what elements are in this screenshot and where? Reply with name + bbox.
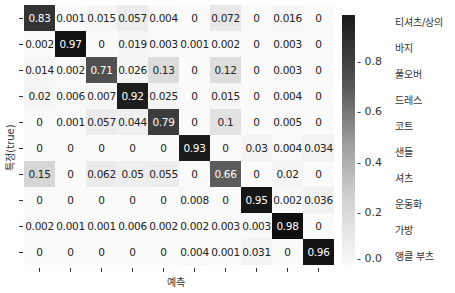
heatmap-cell: 0.97: [55, 31, 86, 57]
heatmap-cell: 0.1: [210, 109, 241, 135]
heatmap-cell: 0.001: [55, 109, 86, 135]
heatmap-cell: 0.016: [272, 5, 303, 31]
heatmap-cell: 0.015: [86, 5, 117, 31]
heatmap-cell: 0.96: [303, 239, 334, 265]
heatmap-cell: 0.02: [24, 83, 55, 109]
class-label: 운동화: [395, 196, 422, 211]
y-tick: [19, 70, 23, 71]
heatmap-cell: 0: [303, 213, 334, 239]
heatmap-cell: 0: [24, 109, 55, 135]
heatmap-cell: 0: [86, 135, 117, 161]
heatmap-cell: 0.12: [210, 57, 241, 83]
heatmap-cell: 0.66: [210, 161, 241, 187]
heatmap-cell: 0.003: [272, 57, 303, 83]
y-tick: [19, 122, 23, 123]
heatmap-cell: 0.025: [148, 83, 179, 109]
x-axis-label: 예측: [167, 274, 185, 289]
heatmap-cell: 0.92: [117, 83, 148, 109]
class-label: 드레스: [395, 92, 422, 107]
heatmap-cell: 0: [86, 31, 117, 57]
heatmap-cell: 0.004: [272, 135, 303, 161]
class-label: 티셔츠/상의: [395, 14, 443, 29]
heatmap-cell: 0.005: [272, 109, 303, 135]
heatmap-cell: 0: [303, 57, 334, 83]
heatmap-cell: 0: [86, 239, 117, 265]
heatmap-cell: 0.79: [148, 109, 179, 135]
heatmap-cell: 0: [148, 239, 179, 265]
heatmap-cell: 0.02: [272, 161, 303, 187]
heatmap-cell: 0.83: [24, 5, 55, 31]
heatmap-cell: 0.001: [86, 213, 117, 239]
x-tick: [287, 268, 288, 272]
y-tick: [19, 44, 23, 45]
heatmap-cell: 0.001: [55, 5, 86, 31]
heatmap-cell: 0.002: [55, 57, 86, 83]
class-label: 샌들: [395, 144, 413, 159]
heatmap-cell: 0: [179, 83, 210, 109]
heatmap-cell: 0: [179, 161, 210, 187]
heatmap-cell: 0: [303, 83, 334, 109]
heatmap-cell: 0.003: [148, 31, 179, 57]
heatmap-cell: 0.03: [241, 135, 272, 161]
heatmap-cell: 0.014: [24, 57, 55, 83]
heatmap-cell: 0: [179, 57, 210, 83]
y-tick: [19, 96, 23, 97]
heatmap-cell: 0: [55, 161, 86, 187]
heatmap-cell: 0.034: [303, 135, 334, 161]
heatmap-cell: 0.002: [148, 213, 179, 239]
heatmap-cell: 0: [148, 135, 179, 161]
heatmap-cell: 0.055: [148, 161, 179, 187]
heatmap-cell: 0.007: [86, 83, 117, 109]
heatmap-cell: 0.15: [24, 161, 55, 187]
x-tick: [194, 268, 195, 272]
heatmap-cell: 0.031: [241, 239, 272, 265]
colorbar-tick-label: 0.8: [357, 55, 382, 68]
x-tick: [39, 268, 40, 272]
class-label: 셔츠: [395, 170, 413, 185]
y-tick: [19, 200, 23, 201]
heatmap-cell: 0.001: [179, 31, 210, 57]
heatmap-cell: 0.004: [148, 5, 179, 31]
heatmap-cell: 0.002: [24, 213, 55, 239]
colorbar-tick-label: 0.6: [357, 105, 382, 118]
heatmap-cell: 0: [241, 31, 272, 57]
y-axis-label: 특정(true): [2, 124, 17, 170]
heatmap-cell: 0: [179, 5, 210, 31]
heatmap-cell: 0: [86, 187, 117, 213]
class-label: 풀오버: [395, 66, 422, 81]
heatmap-cell: 0: [241, 57, 272, 83]
x-tick: [132, 268, 133, 272]
colorbar-tick-label: 0.2: [357, 206, 382, 219]
y-tick: [19, 148, 23, 149]
heatmap-cell: 0.002: [210, 31, 241, 57]
heatmap-cell: 0: [241, 83, 272, 109]
heatmap-cell: 0.062: [86, 161, 117, 187]
heatmap-cell: 0: [55, 187, 86, 213]
colorbar-tick-label: 0.0: [357, 252, 382, 265]
heatmap-cell: 0: [241, 109, 272, 135]
colorbar-tick-label: 0.4: [357, 156, 382, 169]
heatmap-cell: 0: [24, 135, 55, 161]
heatmap-cell: 0.001: [55, 213, 86, 239]
confusion-matrix-grid: 0.830.0010.0150.0570.00400.07200.01600.0…: [24, 5, 334, 265]
heatmap-cell: 0: [303, 109, 334, 135]
heatmap-cell: 0.13: [148, 57, 179, 83]
heatmap-cell: 0: [117, 239, 148, 265]
heatmap-cell: 0: [303, 31, 334, 57]
heatmap-cell: 0.93: [179, 135, 210, 161]
heatmap-cell: 0.002: [272, 187, 303, 213]
y-tick: [19, 18, 23, 19]
y-tick: [19, 174, 23, 175]
heatmap-cell: 0.044: [117, 109, 148, 135]
heatmap-cell: 0: [179, 109, 210, 135]
heatmap-cell: 0: [272, 239, 303, 265]
heatmap-cell: 0: [210, 187, 241, 213]
heatmap-cell: 0.003: [272, 31, 303, 57]
heatmap-cell: 0.072: [210, 5, 241, 31]
x-tick: [101, 268, 102, 272]
x-tick: [225, 268, 226, 272]
heatmap-cell: 0.001: [210, 239, 241, 265]
x-tick: [318, 268, 319, 272]
heatmap-cell: 0.006: [55, 83, 86, 109]
heatmap-cell: 0.057: [86, 109, 117, 135]
